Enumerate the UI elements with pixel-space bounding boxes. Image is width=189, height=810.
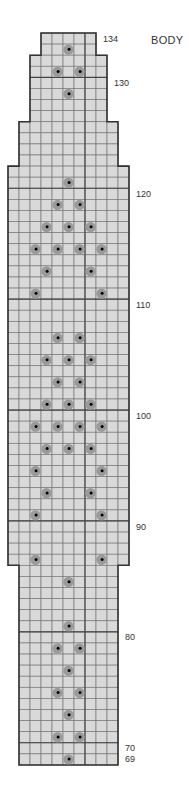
- chart-cell: [41, 643, 52, 654]
- chart-cell: [74, 466, 85, 477]
- chart-cell: [30, 665, 41, 676]
- chart-cell: [41, 576, 52, 587]
- chart-cell: [63, 366, 74, 377]
- chart-cell: [96, 676, 107, 687]
- chart-cell: [85, 288, 96, 299]
- chart-cell: [118, 332, 129, 343]
- chart-cell: [30, 676, 41, 687]
- chart-cell: [8, 233, 19, 244]
- chart-cell: [96, 266, 107, 277]
- chart-cell: [74, 410, 85, 421]
- chart-cell: [107, 521, 118, 532]
- chart-cell: [107, 277, 118, 288]
- chart-cell: [96, 111, 107, 122]
- chart-cell: [52, 454, 63, 465]
- chart-cell: [107, 144, 118, 155]
- chart-cell: [96, 332, 107, 343]
- chart-cell: [41, 310, 52, 321]
- chart-cell: [30, 155, 41, 166]
- chart-cell: [52, 543, 63, 554]
- chart-cell: [107, 310, 118, 321]
- chart-cell: [107, 122, 118, 133]
- chart-cell: [52, 177, 63, 188]
- chart-cell: [85, 88, 96, 99]
- chart-cell: [96, 643, 107, 654]
- chart-cell: [107, 466, 118, 477]
- chart-cell: [19, 299, 30, 310]
- chart-cell: [74, 709, 85, 720]
- chart-cell: [96, 543, 107, 554]
- chart-cell: [118, 366, 129, 377]
- chart-cell: [74, 44, 85, 55]
- chart-cell: [41, 588, 52, 599]
- chart-cell: [52, 288, 63, 299]
- chart-cell: [63, 155, 74, 166]
- chart-cell: [41, 188, 52, 199]
- chart-cell: [30, 698, 41, 709]
- chart-cell: [52, 466, 63, 477]
- chart-cell: [96, 665, 107, 676]
- chart-cell: [85, 676, 96, 687]
- chart-cell: [52, 721, 63, 732]
- chart-cell: [19, 199, 30, 210]
- chart-cell: [41, 754, 52, 765]
- chart-cell: [52, 210, 63, 221]
- chart-cell: [74, 188, 85, 199]
- chart-cell: [52, 44, 63, 55]
- chart-cell: [52, 144, 63, 155]
- chart-cell: [52, 111, 63, 122]
- chart-cell: [19, 133, 30, 144]
- chart-cell: [63, 332, 74, 343]
- chart-cell: [118, 266, 129, 277]
- chart-cell: [118, 233, 129, 244]
- chart-cell: [85, 709, 96, 720]
- chart-cell: [74, 255, 85, 266]
- bobble-icon: [52, 200, 62, 210]
- chart-cell: [52, 410, 63, 421]
- chart-cell: [96, 698, 107, 709]
- chart-cell: [63, 676, 74, 687]
- chart-cell: [8, 266, 19, 277]
- bobble-icon: [96, 421, 106, 431]
- chart-cell: [74, 233, 85, 244]
- chart-cell: [41, 676, 52, 687]
- chart-cell: [30, 443, 41, 454]
- chart-cell: [41, 421, 52, 432]
- chart-cell: [85, 310, 96, 321]
- chart-cell: [85, 299, 96, 310]
- chart-cell: [41, 321, 52, 332]
- chart-cell: [52, 344, 63, 355]
- bobble-icon: [74, 244, 84, 254]
- chart-cell: [107, 554, 118, 565]
- chart-cell: [19, 521, 30, 532]
- chart-cell: [19, 709, 30, 720]
- chart-cell: [41, 621, 52, 632]
- chart-cell: [8, 443, 19, 454]
- chart-cell: [74, 443, 85, 454]
- chart-cell: [52, 521, 63, 532]
- bobble-icon: [85, 266, 95, 276]
- chart-cell: [85, 66, 96, 77]
- chart-cell: [74, 743, 85, 754]
- chart-cell: [30, 366, 41, 377]
- bobble-icon: [52, 688, 62, 698]
- chart-cell: [41, 155, 52, 166]
- chart-cell: [107, 743, 118, 754]
- row-label-110: 110: [136, 300, 150, 310]
- chart-cell: [30, 488, 41, 499]
- chart-cell: [30, 111, 41, 122]
- chart-cell: [107, 321, 118, 332]
- chart-cell: [52, 399, 63, 410]
- chart-cell: [63, 111, 74, 122]
- chart-cell: [19, 122, 30, 133]
- chart-cell: [30, 88, 41, 99]
- chart-cell: [118, 388, 129, 399]
- chart-cell: [85, 732, 96, 743]
- chart-cell: [107, 244, 118, 255]
- chart-cell: [74, 277, 85, 288]
- chart-cell: [107, 565, 118, 576]
- chart-cell: [96, 255, 107, 266]
- chart-cell: [52, 599, 63, 610]
- bobble-icon: [41, 399, 51, 409]
- chart-cell: [107, 576, 118, 587]
